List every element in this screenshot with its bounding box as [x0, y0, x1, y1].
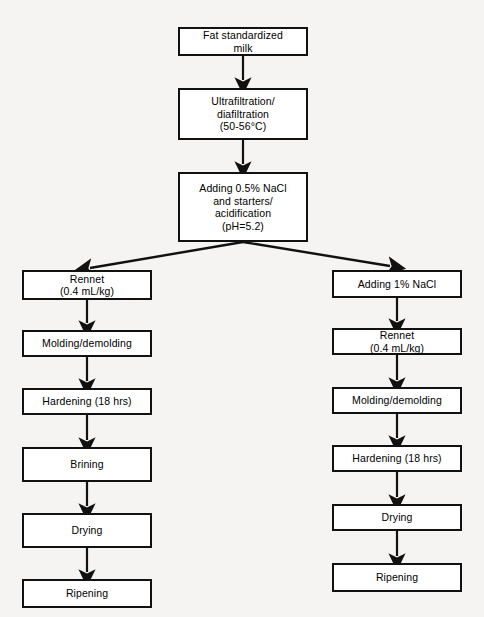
connector-split-right: [243, 242, 390, 266]
node-ultrafiltration-diafiltration: Ultrafiltration/ diafiltration (50-56°C): [178, 88, 308, 140]
connector-split-left: [90, 242, 243, 268]
node-left-hardening: Hardening (18 hrs): [22, 388, 152, 415]
node-right-ripening: Ripening: [332, 563, 462, 592]
node-left-ripening: Ripening: [22, 579, 152, 608]
node-fat-standardized-milk: Fat standardized milk: [178, 27, 308, 56]
node-right-hardening: Hardening (18 hrs): [332, 445, 462, 472]
node-right-drying: Drying: [332, 504, 462, 531]
node-right-molding-demolding: Molding/demolding: [332, 387, 462, 414]
node-left-brining: Brining: [22, 447, 152, 482]
node-left-rennet: Rennet (0.4 mL/kg): [22, 270, 152, 300]
node-adding-nacl-and-starters: Adding 0.5% NaCl and starters/ acidifica…: [178, 172, 308, 242]
process-flow-diagram: Fat standardized milk Ultrafiltration/ d…: [0, 0, 484, 617]
node-left-molding-demolding: Molding/demolding: [22, 330, 152, 357]
node-right-adding-1pct-nacl: Adding 1% NaCl: [332, 270, 462, 298]
node-left-drying: Drying: [22, 513, 152, 548]
node-right-rennet: Rennet (0.4 mL/kg): [332, 328, 462, 355]
